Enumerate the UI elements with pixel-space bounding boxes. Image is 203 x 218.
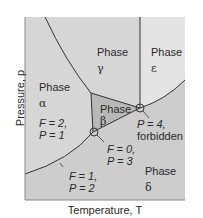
phase-beta-label: Phaseβ bbox=[100, 103, 131, 128]
y-axis-label: Pressure, p bbox=[14, 48, 26, 148]
phase-delta-label: Phaseδ bbox=[145, 165, 176, 194]
phase-alpha-label: Phaseα bbox=[39, 81, 70, 110]
x-axis-label: Temperature, T bbox=[25, 204, 185, 216]
single-phase-annotation: F = 2,P = 1 bbox=[39, 117, 67, 141]
phase-epsilon-label: Phaseε bbox=[151, 46, 182, 75]
two-phase-annotation: F = 1,P = 2 bbox=[69, 170, 97, 194]
quadruple-point-annotation: P = 4,forbidden bbox=[137, 118, 183, 142]
phase-gamma-label: Phaseγ bbox=[97, 46, 128, 75]
triple-point-annotation: F = 0,P = 3 bbox=[107, 143, 135, 167]
